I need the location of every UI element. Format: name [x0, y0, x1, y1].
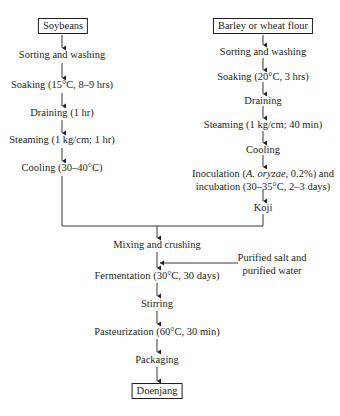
side-input-line2: purified water [242, 265, 301, 276]
organism-name: A. oryzae [246, 168, 286, 179]
side-input-salt-water: Purified salt and purified water [238, 251, 307, 277]
left-step-draining: Draining (1 hr) [30, 107, 94, 119]
left-step-sorting: Sorting and washing [19, 49, 105, 61]
incubation-line: incubation (30–35°C, 2–3 days) [196, 181, 330, 192]
right-step-draining: Draining [244, 95, 281, 107]
merged-step-stirring: Stirring [141, 298, 173, 310]
right-step-sorting: Sorting and washing [220, 46, 306, 58]
koji-step: Koji [254, 202, 273, 214]
right-step-steaming: Steaming (1 kg/cm; 40 min) [204, 119, 322, 131]
doenjang-end-box: Doenjang [132, 383, 183, 399]
merged-step-fermentation: Fermentation (30°C, 30 days) [95, 270, 220, 282]
inoculation-suffix: , 0.2%) and [286, 168, 334, 179]
merged-step-mixing: Mixing and crushing [113, 239, 201, 251]
left-step-soaking: Soaking (15°C, 8–9 hrs) [11, 79, 113, 91]
barley-start-box: Barley or wheat flour [213, 18, 313, 34]
right-step-inoculation: Inoculation (A. oryzae, 0.2%) and incuba… [192, 167, 334, 193]
merged-step-pasteurization: Pasteurization (60°C, 30 min) [94, 326, 220, 338]
soybeans-start-box: Soybeans [38, 18, 88, 34]
inoculation-prefix: Inoculation ( [192, 168, 246, 179]
left-step-cooling: Cooling (30–40°C) [22, 162, 103, 174]
right-step-soaking: Soaking (20°C, 3 hrs) [217, 71, 309, 83]
side-input-line1: Purified salt and [238, 252, 307, 263]
left-step-steaming: Steaming (1 kg/cm; 1 hr) [9, 134, 115, 146]
merged-step-packaging: Packaging [135, 354, 179, 366]
right-step-cooling: Cooling [246, 144, 280, 156]
